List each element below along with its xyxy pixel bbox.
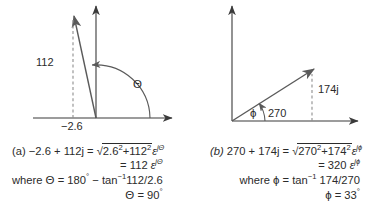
label-angle-phi-b: ϕ [250, 108, 256, 120]
eq-a-radicand: 2.62+1122 [102, 143, 152, 158]
eq-b-equals-4: = [335, 189, 342, 201]
eq-b-rad-first: 270 [298, 145, 317, 157]
label-real-value-b: 270 [268, 108, 286, 119]
eq-a-theta-symbol-1: Θ [46, 174, 55, 186]
phasor-figure: 112 −2.6 Θ 174j 270 ϕ (a) −2.6 + 112j = … [0, 0, 388, 207]
eq-a-equals-2: = [120, 159, 127, 171]
eq-b-phi-symbol-2: ϕ [325, 189, 331, 201]
eq-b-equals-1: = [282, 145, 289, 157]
eq-a-rad-second: 112 [129, 145, 147, 157]
eq-a-magnitude: 112 [130, 159, 148, 171]
equation-block-a: (a) −2.6 + 112j = √2.62+1122εjΘ = 112 εj… [12, 142, 165, 202]
diagram-b-group [232, 6, 358, 121]
eq-a-tan-exp: −1 [118, 172, 127, 181]
eq-a-equals-3: = [58, 174, 65, 186]
angle-arc-b [259, 103, 265, 121]
equation-b-line-4: ϕ = 33° [210, 188, 362, 203]
label-imaginary-magnitude-b-text: 174j [318, 83, 339, 95]
diagram-a-group [33, 6, 172, 118]
label-real-value-a: −2.6 [61, 121, 83, 132]
eq-a-rad-first: 2.6 [103, 145, 119, 157]
eq-b-epsilon-exp-2: jϕ [354, 158, 360, 167]
eq-b-lhs: 270 + 174j [227, 145, 280, 157]
eq-a-tan: tan [102, 174, 118, 186]
eq-a-180: 180 [67, 174, 86, 186]
eq-b-rad-second-exp: 2 [346, 143, 350, 152]
eq-b-rad-second: 174 [328, 145, 347, 157]
eq-b-degree: ° [357, 187, 360, 196]
eq-b-epsilon-exp-1: jϕ [356, 143, 362, 152]
eq-b-tan-exp: −1 [308, 172, 317, 181]
eq-b-tag: (b) [210, 145, 224, 157]
equation-a-line-2: = 112 εjΘ [12, 158, 165, 172]
eq-a-tan-arg: 112/2.6 [126, 174, 163, 186]
equation-a-line-4: Θ = 90° [12, 188, 165, 203]
eq-b-equals-2: = [318, 159, 325, 171]
eq-a-degree-1: ° [86, 172, 89, 181]
eq-a-minus: − [92, 174, 99, 186]
equation-b-line-1: (b) 270 + 174j = √2702+1742εjϕ [210, 142, 362, 158]
eq-a-theta-symbol-2: Θ [125, 189, 134, 201]
eq-a-tag: (a) [12, 145, 26, 157]
equation-a-line-1: (a) −2.6 + 112j = √2.62+1122εjΘ [12, 142, 165, 158]
eq-b-radicand: 2702+1742 [297, 143, 351, 158]
eq-b-where: where [239, 174, 269, 186]
eq-b-magnitude: 320 [328, 159, 347, 171]
eq-b-tan: tan [292, 174, 308, 186]
eq-b-phi-symbol-1: ϕ [273, 174, 279, 186]
eq-a-rad-second-exp: 2 [147, 143, 151, 152]
eq-a-theta-value: 90 [147, 189, 159, 201]
eq-a-lhs: −2.6 + 112j [29, 145, 84, 157]
eq-b-tan-arg: 174/270 [320, 174, 360, 186]
eq-b-equals-3: = [283, 174, 290, 186]
eq-a-sqrt: √2.62+1122 [97, 142, 153, 158]
eq-a-epsilon-exp-1: jΘ [157, 143, 164, 152]
angle-arc-a [92, 65, 150, 118]
eq-b-phi-value: 33 [344, 189, 356, 201]
phasor-vector-a [74, 16, 96, 118]
eq-a-equals-4: = [137, 189, 144, 201]
label-imaginary-magnitude-b: 174j [318, 84, 339, 95]
eq-a-degree-2: ° [160, 187, 163, 196]
equation-a-line-3: where Θ = 180° − tan−1112/2.6 [12, 173, 165, 188]
equation-block-b: (b) 270 + 174j = √2702+1742εjϕ = 320 εjϕ… [210, 142, 362, 202]
label-angle-theta-a: Θ [133, 79, 142, 91]
eq-b-sqrt: √2702+1742 [292, 142, 352, 158]
equation-b-line-3: where ϕ = tan−1 174/270 [210, 173, 362, 188]
equation-b-line-2: = 320 εjϕ [210, 158, 362, 172]
eq-a-epsilon-exp-2: jΘ [155, 158, 162, 167]
label-imaginary-magnitude-a: 112 [36, 57, 54, 68]
eq-a-where: where [12, 174, 42, 186]
eq-a-equals-1: = [87, 145, 94, 157]
